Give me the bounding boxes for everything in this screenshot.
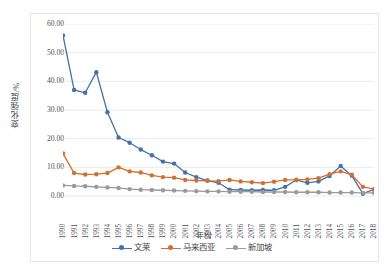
data-point: [94, 70, 98, 74]
legend-marker-icon: [112, 244, 132, 253]
y-axis-tick-label: 60.00: [26, 20, 64, 28]
data-point: [305, 190, 309, 194]
data-point: [316, 190, 320, 194]
legend-dot-icon: [119, 245, 124, 250]
y-axis-tick-label: 10.00: [26, 163, 64, 171]
data-point: [183, 170, 187, 174]
data-point: [116, 186, 120, 190]
data-point: [227, 190, 231, 194]
y-axis-title: 变化强度/%: [9, 62, 23, 148]
y-axis-tick-label: 40.00: [26, 77, 64, 85]
legend-item[interactable]: 新加坡: [226, 243, 272, 253]
x-axis-tick-label: 1998: [148, 224, 156, 238]
x-axis-tick-labels: 1990199119921993199419951996199719981999…: [63, 198, 374, 238]
chart-container: 变化强度/% 0.0010.0020.0030.0040.0050.0060.0…: [0, 0, 384, 273]
data-point: [316, 176, 320, 180]
x-axis-tick-label: 2005: [226, 224, 234, 238]
data-point: [127, 140, 131, 144]
data-point: [139, 187, 143, 191]
data-point: [161, 159, 165, 163]
data-point: [250, 190, 254, 194]
data-point: [239, 179, 243, 183]
data-point: [63, 151, 65, 155]
data-point: [216, 179, 220, 183]
y-axis-tick-labels: 0.0010.0020.0030.0040.0050.0060.00: [24, 0, 64, 273]
chart-legend: 文莱马来西亚新加坡: [0, 243, 384, 253]
data-point: [72, 88, 76, 92]
data-point: [372, 191, 374, 195]
plot-area: [63, 24, 374, 196]
x-axis-tick-label: 2011: [293, 224, 301, 238]
data-point: [72, 171, 76, 175]
x-axis-tick-label: 2009: [270, 224, 278, 238]
legend-label: 新加坡: [248, 243, 272, 253]
series-line: [63, 35, 374, 193]
x-axis-tick-label: 2010: [282, 224, 290, 238]
data-point: [116, 135, 120, 139]
data-point: [294, 190, 298, 194]
data-point: [338, 164, 342, 168]
data-point: [272, 179, 276, 183]
data-point: [150, 188, 154, 192]
data-point: [172, 175, 176, 179]
data-point: [261, 181, 265, 185]
data-point: [205, 189, 209, 193]
x-axis-title: 年份: [196, 228, 212, 240]
data-point: [216, 189, 220, 193]
y-axis-tick-label: 30.00: [26, 106, 64, 114]
data-point: [250, 180, 254, 184]
x-axis-tick-label: 1993: [93, 224, 101, 238]
data-point: [150, 153, 154, 157]
data-point: [94, 185, 98, 189]
x-axis-tick-label: 1992: [82, 224, 90, 238]
data-point: [183, 189, 187, 193]
legend-item[interactable]: 文莱: [112, 243, 150, 253]
data-point: [94, 172, 98, 176]
x-axis-tick-label: 1996: [126, 224, 134, 238]
x-axis-tick-label: 2014: [326, 224, 334, 238]
data-point: [83, 91, 87, 95]
data-point: [194, 189, 198, 193]
legend-marker-icon: [161, 244, 181, 253]
x-axis-tick-label: 1994: [104, 224, 112, 238]
x-axis-tick-label: 2006: [237, 224, 245, 238]
x-axis-tick-label: 2004: [215, 224, 223, 238]
data-point: [161, 188, 165, 192]
data-point: [272, 190, 276, 194]
data-point: [338, 190, 342, 194]
data-point: [116, 165, 120, 169]
data-point: [183, 178, 187, 182]
data-point: [327, 172, 331, 176]
x-axis-tick-label: 2013: [315, 224, 323, 238]
x-axis-tick-label: 2017: [359, 224, 367, 238]
data-point: [361, 185, 365, 189]
data-point: [350, 173, 354, 177]
data-point: [361, 191, 365, 195]
data-point: [305, 177, 309, 181]
data-point: [338, 169, 342, 173]
y-axis-tick-label: 0.00: [26, 192, 64, 200]
data-point: [105, 110, 109, 114]
x-axis-tick-label: 2000: [170, 224, 178, 238]
data-point: [105, 185, 109, 189]
legend-dot-icon: [233, 245, 238, 250]
data-point: [283, 190, 287, 194]
data-point: [63, 183, 65, 187]
data-point: [127, 187, 131, 191]
x-axis-tick-label: 1991: [71, 224, 79, 238]
legend-marker-icon: [226, 244, 246, 253]
data-point: [172, 161, 176, 165]
series-马来西亚: [63, 151, 374, 191]
data-point: [150, 173, 154, 177]
legend-label: 文莱: [134, 243, 150, 253]
x-axis-tick-label: 2012: [304, 224, 312, 238]
x-axis-tick-label: 1997: [137, 224, 145, 238]
y-axis-tick-label: 50.00: [26, 49, 64, 57]
x-axis-tick-label: 2001: [182, 224, 190, 238]
legend-item[interactable]: 马来西亚: [161, 243, 215, 253]
data-point: [261, 190, 265, 194]
x-axis-tick-label: 2018: [370, 224, 378, 238]
data-point: [161, 175, 165, 179]
x-axis-tick-label: 2016: [348, 224, 356, 238]
data-point: [283, 178, 287, 182]
